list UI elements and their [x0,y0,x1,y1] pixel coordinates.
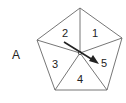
segment-label-1: 1 [92,27,98,39]
pentagon-diagram: A 1 2 3 4 5 [0,0,126,103]
arrowhead-icon [89,55,99,64]
segment-label-2: 2 [62,27,68,39]
segment-label-3: 3 [52,58,58,70]
panel-label: A [12,48,20,62]
segment-label-4: 4 [77,73,83,85]
divider-line [80,38,122,53]
arrow-icon [64,42,93,60]
segment-label-5: 5 [101,57,107,69]
divider-line [37,40,80,53]
